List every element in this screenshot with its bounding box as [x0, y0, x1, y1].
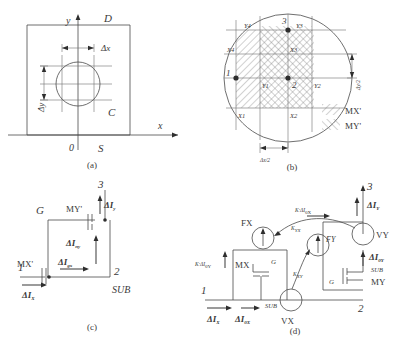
panel-c-current-iy: ΔIy: [103, 200, 116, 211]
panel-b-dx-arrow-left: [260, 146, 266, 150]
panel-a-dx-arrow-left: [62, 46, 68, 50]
panel-c-mx-node-dot: [47, 275, 51, 279]
panel-b-label-x4: X4: [226, 46, 235, 53]
panel-b-node-1-dot: [233, 75, 238, 80]
panel-b-legend-swatch-my: [322, 119, 340, 130]
panel-a: Δx Δy D C S 0 x y (a): [0, 0, 200, 172]
panel-d-node-1: 1: [201, 284, 207, 296]
panel-d-my-gate-label: G: [329, 278, 334, 286]
panel-a-y-arrow: [76, 14, 81, 20]
panel-d-node-2: 2: [358, 302, 364, 314]
panel-a-dim-dy: Δy: [36, 103, 46, 113]
panel-d-coef-kxy: KXY: [292, 271, 304, 279]
panel-a-dim-dx: Δx: [100, 43, 110, 53]
panel-d-label-my: MY: [371, 277, 386, 287]
panel-d-node3-arrow: [361, 185, 366, 191]
panel-b-dy-arrow-bottom: [350, 72, 354, 78]
panel-d-node-3: 3: [366, 180, 373, 192]
panel-a-dx-arrow-right: [88, 46, 94, 50]
panel-c-node-1: 1: [18, 261, 24, 273]
panel-b-legend-label-mx: MX': [345, 106, 362, 116]
panel-c-label-sub: SUB: [112, 284, 130, 295]
panel-a-axis-y: y: [65, 15, 71, 26]
panel-b-node-3-dot: [285, 27, 290, 32]
panel-b-node-3: 3: [281, 16, 287, 26]
panel-d-current-ix: ΔIX: [206, 314, 220, 325]
panel-d-fx-arrow-head: [261, 228, 266, 234]
panel-b-legend-swatch-mx: [322, 104, 340, 115]
panel-d-current-i0y: ΔI0Y: [368, 252, 385, 263]
panel-b-node-2: 2: [292, 80, 297, 90]
panel-c-device-mx: [42, 268, 51, 284]
panel-c: MX' MY' G SUB 3 2 1 ΔIX ΔIgx ΔIny ΔIy (c…: [0, 172, 200, 339]
panel-c-node-2: 2: [114, 265, 120, 277]
panel-b-dx-arrow-right: [282, 146, 288, 150]
panel-a-caption: (a): [87, 160, 97, 170]
panel-b-region-my: [260, 26, 312, 108]
panel-d-arrow-kxy-top-head: [324, 214, 330, 219]
panel-c-current-igx: ΔIgx: [57, 257, 73, 268]
panel-b-legend-label-my: MY': [345, 121, 362, 131]
panel-d-label-fx: FX: [241, 218, 253, 228]
panel-d-arrow-iy-head: [355, 197, 360, 203]
panel-d-my-sub-label: SUB: [371, 266, 383, 273]
panel-d-label-mx: MX: [235, 260, 250, 270]
panel-b-node-2-dot: [285, 75, 290, 80]
panel-d-label-vx: VX: [281, 316, 294, 326]
panel-b-dy-arrow-top: [350, 54, 354, 60]
panel-a-label-c: C: [108, 106, 116, 118]
panel-d-mx-gate-label: G: [271, 258, 276, 266]
panel-d-current-iy: ΔIY: [366, 200, 380, 211]
panel-c-my-node-dot: [103, 218, 107, 222]
panel-d-label-vy: VY: [376, 230, 389, 240]
panel-d-arrow-i0x-head: [254, 306, 260, 311]
panel-b-node-1: 1: [226, 68, 231, 78]
panel-b-label-y3: Y3: [296, 22, 304, 29]
panel-c-current-iny: ΔIny: [65, 238, 81, 249]
panel-d-fy-arrow-head: [316, 235, 321, 241]
panel-a-axis-x: x: [157, 120, 163, 131]
panel-c-arrow-igx-head: [83, 267, 89, 272]
panel-a-label-s: S: [98, 142, 104, 154]
panel-b-label-y2: Y2: [314, 82, 322, 89]
panel-d-coef-kyx: KYX: [290, 225, 301, 233]
panel-b-dim-dx-half: Δx/2: [259, 157, 270, 163]
panel-a-box: [27, 25, 130, 135]
panel-d-curve-kyx: [277, 219, 355, 234]
panel-b-label-y4: Y4: [244, 22, 252, 29]
panel-d: 3 2 1 ΔIX MX G SUB ΔI0X K·ΔI0Y FX FY VX: [195, 172, 400, 339]
panel-d-expr-left: K·ΔI0Y: [194, 261, 212, 269]
panel-b-label-y1: Y1: [262, 82, 269, 89]
panel-d-curve-kxy-head: [305, 249, 310, 255]
panel-c-label-gate: G: [36, 204, 44, 216]
panel-d-device-mx: [253, 264, 269, 300]
panel-c-device-my: [88, 214, 107, 230]
panel-d-arrow-ix-head: [226, 306, 232, 311]
panel-b-label-x1: X1: [237, 112, 245, 119]
panel-d-arrow-kyx-head: [223, 251, 228, 257]
panel-a-label-d: D: [103, 12, 112, 24]
panel-b: 1 2 3 Y4 Y3 X4 X3 Y1 Y2 X1 X2 Δy/2 Δx/2 …: [200, 0, 400, 172]
panel-c-label-my: MY': [66, 204, 83, 214]
panel-b-caption: (b): [287, 162, 298, 172]
panel-c-arrow-iy-head: [98, 195, 103, 201]
panel-b-label-x3: X3: [289, 46, 298, 53]
panel-c-current-ix: ΔIX: [21, 290, 35, 301]
panel-d-label-fy: FY: [325, 235, 337, 244]
panel-a-dy-arrow-bottom: [42, 94, 46, 100]
panel-d-device-my: [343, 250, 363, 284]
panel-d-expr-top: K·ΔI0X: [294, 207, 312, 215]
panel-d-caption: (d): [290, 326, 301, 336]
panel-a-origin: 0: [69, 142, 74, 153]
panel-d-mx-sub-label: SUB: [265, 302, 277, 309]
panel-a-x-arrow: [172, 133, 178, 138]
panel-d-arrow-i0y-head: [361, 251, 366, 257]
panel-c-caption: (c): [87, 322, 97, 332]
panel-a-dy-arrow-top: [42, 66, 46, 72]
panel-b-label-x2: X2: [289, 112, 298, 119]
panel-b-dim-dy-half: Δy/2: [355, 80, 361, 91]
panel-c-node-3: 3: [97, 178, 104, 190]
panel-c-arrow-iny-head: [94, 235, 99, 241]
panel-d-current-i0x: ΔI0X: [234, 314, 251, 325]
